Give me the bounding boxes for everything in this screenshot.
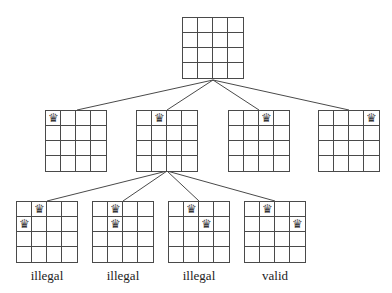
board-cell <box>259 126 274 141</box>
level2-board-2: ♛♛ <box>168 201 230 263</box>
board-cell <box>76 141 91 156</box>
board-cell <box>138 202 153 217</box>
board-cell <box>32 232 47 247</box>
edge-root-to-l1-0 <box>77 80 213 110</box>
board-cell: ♛ <box>260 202 275 217</box>
board-cell <box>93 247 108 262</box>
board-cell <box>152 126 167 141</box>
board-cell <box>244 156 259 171</box>
board-cell <box>184 217 199 232</box>
board-cell <box>214 202 229 217</box>
board-cell: ♛ <box>199 217 214 232</box>
board-cell <box>260 247 275 262</box>
board-cell: ♛ <box>46 111 61 126</box>
root-board <box>182 17 244 79</box>
board-cell <box>334 141 349 156</box>
board-cell <box>319 156 334 171</box>
board-cell <box>167 156 182 171</box>
board-cell <box>228 48 243 63</box>
board-cell <box>214 232 229 247</box>
board-cell <box>198 33 213 48</box>
edge-root-to-l1-3 <box>213 80 349 110</box>
board-cell <box>47 247 62 262</box>
board-cell <box>290 247 305 262</box>
board-cell <box>46 156 61 171</box>
board-cell <box>259 156 274 171</box>
board-cell <box>245 202 260 217</box>
board-cell <box>213 33 228 48</box>
board-cell <box>213 48 228 63</box>
level1-board-2: ♛ <box>228 110 290 172</box>
board-cell <box>198 63 213 78</box>
board-cell <box>213 63 228 78</box>
board-cell <box>245 247 260 262</box>
board-cell <box>61 156 76 171</box>
board-cell <box>364 141 379 156</box>
board-cell <box>334 111 349 126</box>
board-cell <box>167 126 182 141</box>
board-cell <box>17 232 32 247</box>
board-cell <box>169 217 184 232</box>
board-cell <box>229 111 244 126</box>
board-cell <box>17 247 32 262</box>
board-cell <box>93 202 108 217</box>
board-cell <box>183 18 198 33</box>
board-cell <box>213 18 228 33</box>
board-cell <box>274 156 289 171</box>
board-cell <box>169 202 184 217</box>
board-cell <box>349 141 364 156</box>
edge-l1-to-l2-1 <box>123 171 167 201</box>
board-cell <box>137 126 152 141</box>
board-cell <box>91 111 106 126</box>
board-cell <box>349 126 364 141</box>
board-cell: ♛ <box>152 111 167 126</box>
board-cell <box>275 247 290 262</box>
board-cell <box>228 63 243 78</box>
level1-board-0: ♛ <box>45 110 107 172</box>
board-cell <box>229 126 244 141</box>
board-cell <box>349 156 364 171</box>
board-cell <box>214 217 229 232</box>
board-cell: ♛ <box>32 202 47 217</box>
board-cell: ♛ <box>17 217 32 232</box>
board-cell <box>319 141 334 156</box>
board-cell <box>275 232 290 247</box>
board-cell <box>32 217 47 232</box>
board-cell <box>364 156 379 171</box>
board-cell <box>137 111 152 126</box>
queen-icon: ♛ <box>110 203 121 215</box>
level1-board-3: ♛ <box>318 110 380 172</box>
board-cell <box>364 126 379 141</box>
board-cell <box>228 33 243 48</box>
status-label-illegal: illegal <box>16 268 78 284</box>
board-cell <box>184 232 199 247</box>
queen-icon: ♛ <box>34 203 45 215</box>
board-cell <box>349 111 364 126</box>
edge-root-to-l1-2 <box>213 80 259 110</box>
board-cell <box>319 126 334 141</box>
board-cell <box>169 232 184 247</box>
board-cell <box>123 202 138 217</box>
board-cell <box>290 202 305 217</box>
board-cell <box>182 126 197 141</box>
board-cell <box>91 141 106 156</box>
board-cell <box>183 48 198 63</box>
board-cell <box>245 217 260 232</box>
queen-icon: ♛ <box>19 218 30 230</box>
board-cell <box>32 247 47 262</box>
board-cell <box>61 111 76 126</box>
board-cell <box>76 156 91 171</box>
board-cell <box>244 141 259 156</box>
board-cell <box>108 232 123 247</box>
board-cell <box>62 202 77 217</box>
board-cell <box>61 126 76 141</box>
board-cell <box>275 217 290 232</box>
status-label-illegal: illegal <box>168 268 230 284</box>
board-cell <box>274 141 289 156</box>
board-cell <box>334 156 349 171</box>
board-cell <box>137 156 152 171</box>
level2-board-3: ♛♛ <box>244 201 306 263</box>
board-cell <box>245 232 260 247</box>
board-cell <box>214 247 229 262</box>
board-cell: ♛ <box>184 202 199 217</box>
